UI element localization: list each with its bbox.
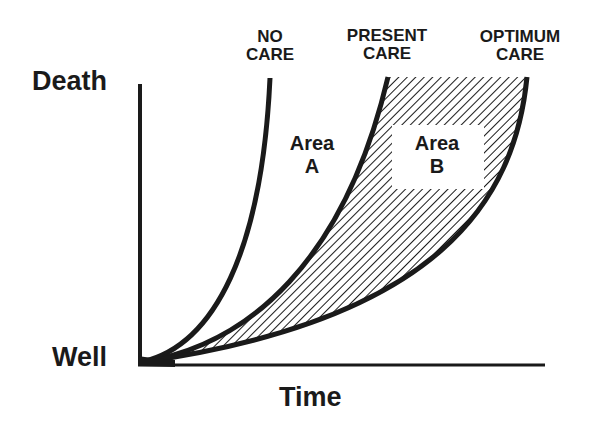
optimum-care-label-line2: CARE bbox=[467, 46, 573, 64]
present-care-label: PRESENT CARE bbox=[333, 27, 441, 63]
no-care-label-line2: CARE bbox=[237, 46, 303, 64]
diagram-canvas: Death Well Time NO CARE PRESENT CARE OPT… bbox=[0, 0, 599, 438]
no-care-label-line1: NO bbox=[237, 28, 303, 46]
area-b-label: Area B bbox=[407, 132, 467, 178]
area-b-label-line2: B bbox=[407, 155, 467, 178]
y-axis-top-label: Death bbox=[32, 67, 107, 95]
present-care-label-line2: CARE bbox=[333, 45, 441, 63]
area-a-label-line2: A bbox=[282, 155, 342, 178]
no-care-label: NO CARE bbox=[237, 28, 303, 64]
y-axis-bottom-label: Well bbox=[52, 343, 107, 371]
optimum-care-label-line1: OPTIMUM bbox=[467, 28, 573, 46]
optimum-care-label: OPTIMUM CARE bbox=[467, 28, 573, 64]
present-care-label-line1: PRESENT bbox=[333, 27, 441, 45]
area-a-label-line1: Area bbox=[282, 132, 342, 155]
x-axis-label: Time bbox=[279, 383, 342, 411]
area-a-label: Area A bbox=[282, 132, 342, 178]
area-b-label-line1: Area bbox=[407, 132, 467, 155]
